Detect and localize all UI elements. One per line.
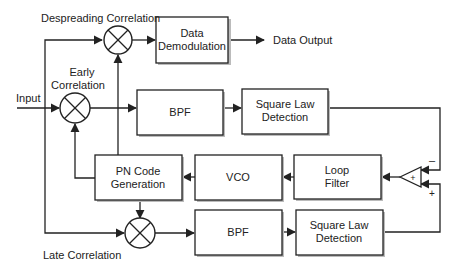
sum-plus-sign: + <box>410 173 415 183</box>
label-data-output: Data Output <box>273 34 332 46</box>
dll-block-diagram: + – + Data Demodulation BPF Square Law D… <box>0 0 457 273</box>
block-loop-filter: Loop Filter <box>294 155 383 201</box>
label-late-correlation: Late Correlation <box>43 249 121 261</box>
summing-junction: + <box>400 167 421 187</box>
block-label: BPF <box>227 226 249 238</box>
block-bpf-early: BPF <box>137 90 225 137</box>
minus-sign: – <box>429 154 436 166</box>
block-square-law-late: Square Law Detection <box>296 210 385 257</box>
block-label: Data <box>180 27 204 39</box>
early-multiplier <box>60 93 90 123</box>
label-early-line1: Early <box>69 66 95 78</box>
block-label: Square Law <box>256 98 315 110</box>
late-multiplier <box>125 218 155 248</box>
label-early-line2: Correlation <box>51 79 105 91</box>
block-data-demodulation: Data Demodulation <box>156 17 231 65</box>
block-label: VCO <box>226 171 250 183</box>
block-label: Detection <box>316 232 362 244</box>
block-label: Detection <box>262 111 308 123</box>
block-square-law-early: Square Law Detection <box>242 89 330 136</box>
block-label: Square Law <box>310 219 369 231</box>
block-label: BPF <box>169 106 191 118</box>
block-vco: VCO <box>195 155 284 202</box>
wire-pn-to-early <box>75 124 95 178</box>
block-label: Filter <box>325 177 350 189</box>
block-bpf-late: BPF <box>195 210 284 257</box>
label-despreading-correlation: Despreading Correlation <box>41 12 160 24</box>
block-pn-code-generation: PN Code Generation <box>95 155 184 202</box>
plus-sign: + <box>429 188 435 199</box>
block-label: Loop <box>325 164 349 176</box>
despreading-multiplier <box>104 26 132 54</box>
label-input: Input <box>16 92 40 104</box>
block-label: PN Code <box>116 165 161 177</box>
block-label: Demodulation <box>158 40 226 52</box>
block-label: Generation <box>111 178 165 190</box>
